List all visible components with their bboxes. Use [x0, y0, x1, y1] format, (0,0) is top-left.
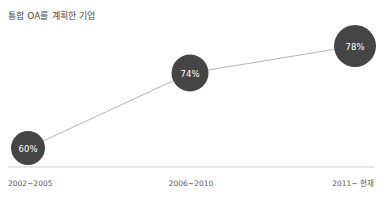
- bubble-line-chart: 통합 OA를 계획한 기업 60% 74% 78% 2002~2005 2006…: [0, 0, 382, 205]
- bubble-value-label: 60%: [18, 144, 37, 154]
- data-point-2[interactable]: 78%: [334, 25, 376, 67]
- bubble-value-label: 78%: [345, 42, 364, 52]
- bubble-value-label: 74%: [180, 69, 199, 79]
- x-axis-tick-label-2: 2011~ 현재: [0, 178, 374, 189]
- data-point-1[interactable]: 74%: [172, 55, 209, 92]
- data-point-0[interactable]: 60%: [11, 131, 45, 165]
- chart-plot-area: 60% 74% 78%: [0, 0, 382, 205]
